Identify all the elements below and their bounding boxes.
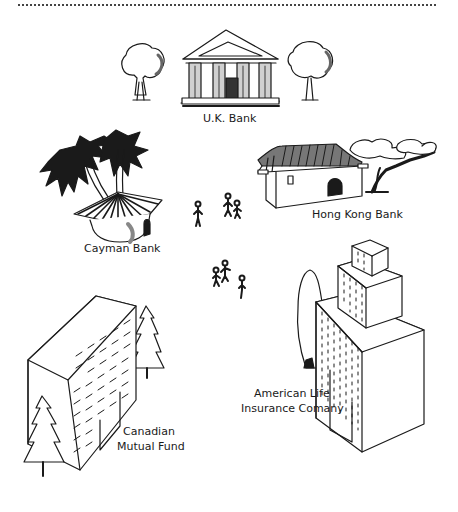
canadian-fund-label-line1: Canadian (123, 424, 175, 439)
people-group-lower (213, 261, 245, 299)
hong-kong-bank-label: Hong Kong Bank (312, 207, 403, 222)
cayman-bank-label: Cayman Bank (84, 241, 160, 256)
american-life-building (316, 240, 424, 452)
cayman-hut (74, 192, 162, 242)
uk-tree-left (122, 44, 164, 100)
people-group-upper (194, 194, 241, 227)
uk-bank-building (181, 30, 279, 106)
illustration-canvas (0, 0, 458, 512)
canadian-fund-label-line2: Mutual Fund (117, 439, 185, 454)
uk-tree-right (288, 42, 332, 100)
hong-kong-bank-building (258, 144, 368, 208)
american-life-label-line2: Insurance Comany (241, 401, 344, 416)
uk-bank-label: U.K. Bank (203, 111, 256, 126)
american-life-label-line1: American Life (254, 386, 330, 401)
